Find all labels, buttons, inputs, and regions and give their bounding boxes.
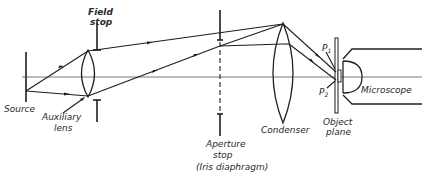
- label-aperture-stop-3: (Iris diaphragm): [196, 162, 268, 172]
- ray-aperture-to-condenser: [220, 24, 283, 46]
- label-condenser: Condenser: [261, 125, 311, 135]
- auxiliary-lens: [82, 50, 95, 97]
- object-plane: [335, 38, 341, 113]
- light-rays: [26, 24, 336, 96]
- label-aperture-stop-1: Aperture: [205, 139, 246, 149]
- label-object-plane-2: plane: [325, 127, 351, 137]
- label-microscope: Microscope: [361, 85, 412, 95]
- ray-source-to-lens-bottom: [26, 91, 88, 96]
- arrow-icon: [309, 59, 314, 64]
- leader-p2: [327, 81, 335, 88]
- aperture-stop: [217, 10, 223, 136]
- ray-aperture-through: [220, 44, 283, 46]
- ray-upper-to-condenser: [88, 24, 283, 51]
- label-auxiliary-lens-1: Auxiliary: [41, 112, 82, 122]
- arrow-icon: [147, 42, 153, 45]
- arrow-icon: [64, 93, 70, 96]
- microscope-objective: [343, 49, 422, 104]
- arrow-icon: [152, 70, 158, 73]
- leader-auxiliary-lens: [63, 98, 84, 113]
- ray-source-to-lens-top: [26, 51, 88, 91]
- label-field-stop-1: Field: [88, 7, 113, 17]
- optical-diagram: Source Auxiliary lens Field stop Apertur…: [0, 0, 431, 179]
- label-p1: P1: [322, 43, 331, 54]
- label-auxiliary-lens-2: lens: [54, 123, 73, 133]
- label-p2: P2: [319, 87, 328, 98]
- label-field-stop-2: stop: [90, 17, 113, 27]
- label-object-plane-1: Object: [323, 117, 353, 127]
- condenser-lens: [273, 23, 293, 123]
- label-source: Source: [4, 104, 36, 114]
- label-aperture-stop-2: stop: [213, 150, 233, 160]
